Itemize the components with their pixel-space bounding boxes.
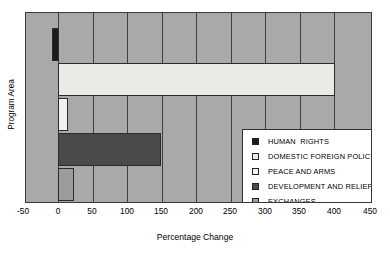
- gridline-250: [231, 13, 232, 202]
- legend-label-domestic-foreign-policy: DOMESTIC FOREIGN POLICY: [268, 152, 372, 161]
- x-tick-0: 0: [56, 206, 61, 216]
- y-axis-title: Program Area: [7, 65, 16, 145]
- gridline-100: [127, 13, 128, 202]
- plot-area: HUMAN RIGHTS DOMESTIC FOREIGN POLICY PEA…: [25, 12, 372, 203]
- legend-label-peace-and-arms: PEACE AND ARMS: [268, 167, 335, 176]
- bar-human-rights: [52, 28, 59, 61]
- legend-item-peace-and-arms[interactable]: PEACE AND ARMS: [243, 164, 372, 179]
- legend-swatch-icon-domestic-foreign-policy: [252, 153, 259, 160]
- x-tick-200: 200: [189, 206, 203, 216]
- x-tick-250: 250: [223, 206, 237, 216]
- bar-peace-and-arms: [58, 98, 68, 131]
- x-tick-450: 450: [363, 206, 377, 216]
- bar-exchanges: [58, 168, 74, 201]
- legend-item-exchanges[interactable]: EXCHANGES: [243, 194, 372, 203]
- x-tick-50: 50: [87, 206, 96, 216]
- legend-item-domestic-foreign-policy[interactable]: DOMESTIC FOREIGN POLICY: [243, 149, 372, 164]
- legend-swatch-icon-peace-and-arms: [252, 168, 259, 175]
- legend-item-development-and-relief[interactable]: DEVELOPMENT AND RELIEF: [243, 179, 372, 194]
- legend-swatch-icon-exchanges: [252, 198, 259, 203]
- x-tick-300: 300: [258, 206, 272, 216]
- x-tick-minus-50: -50: [17, 206, 29, 216]
- gridline-200: [196, 13, 197, 202]
- x-tick-400: 400: [327, 206, 341, 216]
- x-tick-100: 100: [120, 206, 134, 216]
- bar-domestic-foreign-policy: [58, 63, 335, 96]
- legend-swatch-icon-human-rights: [252, 138, 259, 145]
- legend-label-development-and-relief: DEVELOPMENT AND RELIEF: [268, 182, 372, 191]
- legend-item-human-rights[interactable]: HUMAN RIGHTS: [243, 134, 372, 149]
- legend-label-human-rights: HUMAN RIGHTS: [268, 137, 329, 146]
- x-tick-150: 150: [154, 206, 168, 216]
- legend: HUMAN RIGHTS DOMESTIC FOREIGN POLICY PEA…: [242, 129, 372, 203]
- legend-swatch-icon-development-and-relief: [252, 183, 259, 190]
- x-axis-title: Percentage Change: [0, 232, 390, 242]
- x-tick-350: 350: [292, 206, 306, 216]
- legend-label-exchanges: EXCHANGES: [268, 197, 316, 203]
- x-axis-tick-labels: -50 0 50 100 150 200 250 300 350 400 450: [0, 206, 390, 220]
- gridline-50: [93, 13, 94, 202]
- gridline-150: [162, 13, 163, 202]
- bar-development-and-relief: [58, 133, 161, 166]
- bar-chart: HUMAN RIGHTS DOMESTIC FOREIGN POLICY PEA…: [0, 0, 390, 254]
